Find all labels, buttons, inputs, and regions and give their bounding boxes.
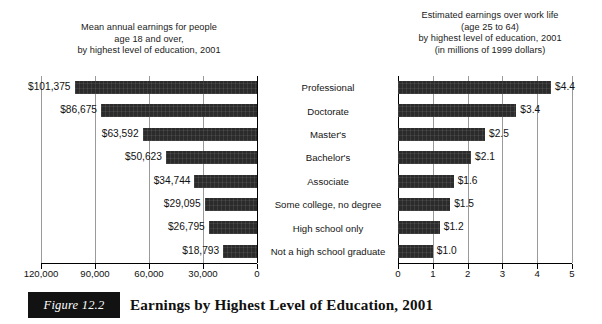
right-chart-bar-row <box>398 216 572 239</box>
left-chart-value-label: $34,744 <box>154 173 191 189</box>
category-label: Bachelor's <box>262 146 394 169</box>
right-chart-bar-row <box>398 240 572 263</box>
left-chart-bar <box>205 198 257 211</box>
left-chart-value-label: $86,675 <box>60 102 97 118</box>
left-chart-value-label: $101,375 <box>28 79 71 95</box>
right-chart-bar <box>398 245 433 258</box>
left-chart-bar <box>223 245 257 258</box>
category-label: Not a high school graduate <box>262 240 394 263</box>
left-chart-value-label: $50,623 <box>125 149 162 165</box>
right-chart-tick-label: 4 <box>535 268 540 279</box>
right-chart-gridline <box>572 76 573 263</box>
left-chart-bar <box>194 175 257 188</box>
right-chart-axis-tick-labels: 012345 <box>0 268 602 282</box>
category-label: Associate <box>262 170 394 193</box>
left-chart-bar-row <box>41 216 257 239</box>
right-chart-value-label: $2.1 <box>475 149 495 165</box>
right-chart-bar <box>398 128 485 141</box>
right-bar-chart-plot-area: $4.4$3.4$2.5$2.1$1.6$1.5$1.2$1.0 <box>398 76 572 263</box>
right-chart-bar <box>398 81 551 94</box>
right-chart-tick-label: 1 <box>430 268 435 279</box>
left-chart-bar <box>101 104 257 117</box>
left-chart-bar-row <box>41 123 257 146</box>
right-chart-tick-label: 2 <box>465 268 470 279</box>
category-label: Doctorate <box>262 99 394 122</box>
right-chart-tick-label: 5 <box>569 268 574 279</box>
right-chart-value-label: $1.6 <box>458 173 478 189</box>
category-label: High school only <box>262 216 394 239</box>
right-chart-value-label: $3.4 <box>520 102 540 118</box>
category-label: Master's <box>262 123 394 146</box>
right-chart-title: Estimated earnings over work life (age 2… <box>392 10 588 56</box>
right-chart-bar <box>398 198 450 211</box>
left-chart-bar <box>209 221 257 234</box>
left-chart-bar <box>75 81 257 94</box>
left-chart-title: Mean annual earnings for people age 18 a… <box>38 22 260 57</box>
left-chart-bar-row <box>41 193 257 216</box>
left-chart-bar-row <box>41 170 257 193</box>
left-chart-value-label: $63,592 <box>102 126 139 142</box>
right-chart-value-label: $2.5 <box>489 126 509 142</box>
left-chart-bar <box>166 151 257 164</box>
right-chart-bar-row <box>398 99 572 122</box>
right-chart-tick-label: 0 <box>395 268 400 279</box>
right-chart-bar <box>398 221 440 234</box>
figure-caption: Figure 12.2 Earnings by Highest Level of… <box>0 290 602 322</box>
figure-number-label: Figure 12.2 <box>44 298 105 313</box>
left-chart-gridline <box>257 76 258 263</box>
right-chart-value-label: $1.0 <box>437 243 457 259</box>
left-chart-bar-row <box>41 240 257 263</box>
left-chart-value-label: $18,793 <box>182 243 219 259</box>
category-label: Professional <box>262 76 394 99</box>
left-chart-bar <box>143 128 257 141</box>
right-chart-bar <box>398 175 454 188</box>
left-chart-value-label: $26,795 <box>168 219 205 235</box>
left-chart-value-label: $29,095 <box>164 196 201 212</box>
right-chart-bar-row <box>398 76 572 99</box>
category-label: Some college, no degree <box>262 193 394 216</box>
right-chart-value-label: $1.2 <box>444 219 464 235</box>
right-chart-tick-label: 3 <box>500 268 505 279</box>
right-chart-bar <box>398 104 516 117</box>
right-chart-axis-line <box>398 263 572 264</box>
right-chart-bar-row <box>398 123 572 146</box>
right-chart-value-label: $1.5 <box>454 196 474 212</box>
right-chart-value-label: $4.4 <box>555 79 575 95</box>
left-chart-bar-row <box>41 76 257 99</box>
right-chart-bar <box>398 151 471 164</box>
figure-caption-title: Earnings by Highest Level of Education, … <box>130 292 433 318</box>
right-chart-bar-row <box>398 193 572 216</box>
figure-number-box: Figure 12.2 <box>28 292 120 318</box>
right-chart-bar-row <box>398 170 572 193</box>
figure-earnings-by-education: Mean annual earnings for people age 18 a… <box>0 0 602 324</box>
category-label-column: ProfessionalDoctorateMaster'sBachelor'sA… <box>262 76 394 263</box>
left-bar-chart-plot-area: $101,375$86,675$63,592$50,623$34,744$29,… <box>41 76 257 263</box>
